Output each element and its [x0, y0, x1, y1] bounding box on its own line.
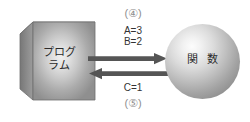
- arrow-right-icon: [88, 53, 168, 65]
- sphere-label: 関 数: [165, 53, 240, 66]
- cube-shape: [16, 20, 98, 102]
- arrow-left-icon: [88, 68, 168, 80]
- step-label-backward: (⑤): [103, 97, 163, 110]
- function-sphere: 関 数: [165, 24, 240, 99]
- program-cube: プログ ラム: [16, 20, 98, 102]
- diagram-canvas: プログ ラム (④) A=3 B=2 C=1 (⑤) 関 数: [0, 0, 250, 122]
- forward-params-label: A=3 B=2: [103, 25, 163, 47]
- cube-front-face: [33, 22, 95, 100]
- backward-params-label: C=1: [103, 82, 163, 93]
- step-label-forward: (④): [103, 7, 163, 20]
- cube-left-face: [20, 22, 33, 100]
